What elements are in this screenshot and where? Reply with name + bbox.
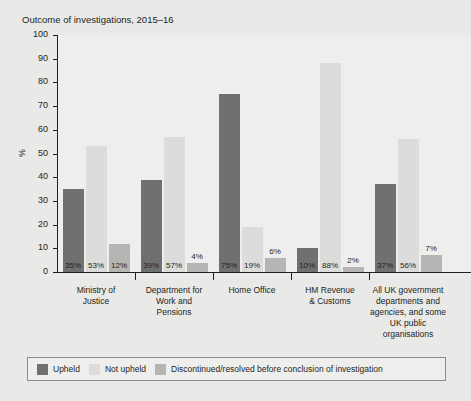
x-category-line: Work and (134, 296, 214, 307)
x-group-tick (135, 272, 136, 280)
x-category-line: All UK government (353, 285, 463, 296)
y-tick-mark (53, 35, 57, 36)
bar (421, 255, 442, 272)
legend-swatch (89, 364, 100, 375)
y-tick-mark (53, 177, 57, 178)
chart-container: Outcome of investigations, 2015–16 % 100… (0, 0, 471, 401)
bar-value-label: 4% (177, 252, 217, 261)
x-category-line: Department for (134, 285, 214, 296)
x-group-tick (369, 272, 370, 280)
bar (320, 63, 341, 272)
y-tick-label: 10 (38, 242, 48, 252)
legend-swatch (37, 364, 48, 375)
x-category-line: Ministry of (56, 285, 136, 296)
bar-value-label: 7% (411, 244, 451, 253)
bar (219, 94, 240, 272)
bar (187, 263, 208, 272)
y-tick-mark (53, 225, 57, 226)
bar-value-label: 6% (255, 247, 295, 256)
bar (375, 184, 396, 272)
x-category-line: Justice (56, 296, 136, 307)
bar (63, 189, 84, 272)
y-tick-label: 40 (38, 171, 48, 181)
y-tick-mark (53, 106, 57, 107)
chart-title: Outcome of investigations, 2015–16 (22, 14, 174, 25)
x-category-line: UK public (353, 318, 463, 329)
x-group-tick (291, 272, 292, 280)
x-group-tick (213, 272, 214, 280)
legend-label: Upheld (53, 364, 80, 374)
y-axis-line (57, 35, 58, 273)
x-category-label: All UK governmentdepartments andagencies… (353, 285, 463, 340)
bar (343, 267, 364, 272)
legend-label: Discontinued/resolved before conclusion … (171, 364, 383, 374)
legend-swatch (155, 364, 166, 375)
y-tick-label: 20 (38, 219, 48, 229)
x-category-label: Home Office (212, 285, 292, 296)
y-tick-label: 30 (38, 195, 48, 205)
y-tick-mark (53, 201, 57, 202)
y-tick-label: 60 (38, 124, 48, 134)
x-category-line: Home Office (212, 285, 292, 296)
y-tick-mark (53, 248, 57, 249)
bar (265, 258, 286, 272)
legend-item[interactable]: Upheld (37, 364, 80, 375)
x-category-line: departments and (353, 296, 463, 307)
x-category-label: Ministry ofJustice (56, 285, 136, 307)
x-category-line: agencies, and some (353, 307, 463, 318)
y-tick-label: 100 (33, 29, 48, 39)
bar (86, 146, 107, 272)
y-axis-title: % (17, 149, 27, 157)
legend-label: Not upheld (105, 364, 146, 374)
y-tick-mark (53, 272, 57, 273)
y-tick-label: 70 (38, 100, 48, 110)
y-tick-mark (53, 130, 57, 131)
y-tick-mark (53, 82, 57, 83)
x-category-line: Pensions (134, 307, 214, 318)
y-tick-mark (53, 59, 57, 60)
bar (141, 180, 162, 272)
chart-legend: UpheldNot upheldDiscontinued/resolved be… (27, 357, 446, 381)
y-tick-mark (53, 154, 57, 155)
x-category-line: organisations (353, 329, 463, 340)
y-tick-label: 90 (38, 53, 48, 63)
x-category-label: Department forWork andPensions (134, 285, 214, 318)
legend-item[interactable]: Not upheld (89, 364, 146, 375)
legend-item[interactable]: Discontinued/resolved before conclusion … (155, 364, 383, 375)
x-axis-line (57, 272, 471, 273)
y-tick-label: 80 (38, 76, 48, 86)
y-tick-label: 0 (43, 266, 48, 276)
y-tick-label: 50 (38, 148, 48, 158)
